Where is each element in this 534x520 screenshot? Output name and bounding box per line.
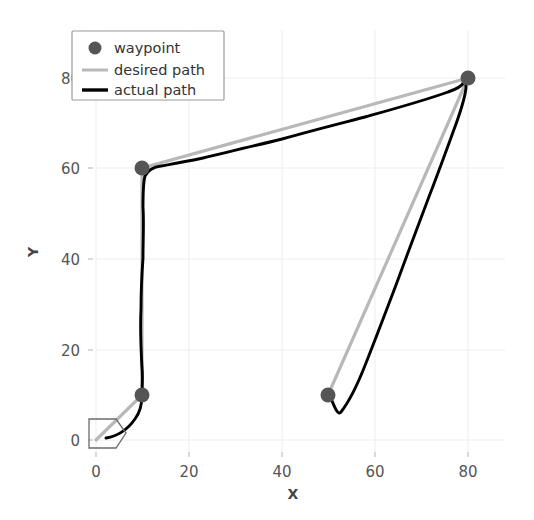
actual-path-series [106, 81, 466, 438]
x-axis-title: X [288, 486, 299, 502]
x-tick-label-80: 80 [458, 463, 477, 481]
y-tick-label-60: 60 [61, 160, 80, 178]
x-tick-label-60: 60 [365, 463, 384, 481]
x-tick-labels: 0 20 40 60 80 [91, 463, 477, 481]
waypoint-marker-50-10 [321, 388, 336, 403]
y-tick-label-20: 20 [61, 342, 80, 360]
y-axis-ticks [88, 78, 93, 440]
waypoint-marker-10-60 [135, 161, 150, 176]
y-axis-title: Y [25, 246, 41, 258]
x-tick-label-20: 20 [179, 463, 198, 481]
waypoint-marker-10-10 [135, 388, 150, 403]
legend-label-desired-path: desired path [114, 62, 205, 78]
legend-label-actual-path: actual path [114, 82, 196, 98]
legend-label-waypoint: waypoint [114, 40, 181, 56]
y-tick-labels: 80 60 40 20 0 [61, 70, 80, 450]
legend-marker-waypoint [89, 42, 102, 55]
chart-figure: 0 20 40 60 80 80 60 40 20 0 X Y [0, 0, 534, 520]
y-tick-label-0: 0 [70, 432, 80, 450]
waypoint-markers [135, 71, 476, 403]
waypoint-tracking-plot: 0 20 40 60 80 80 60 40 20 0 X Y [0, 0, 534, 520]
y-tick-label-40: 40 [61, 251, 80, 269]
legend: waypoint desired path actual path [72, 31, 224, 100]
x-tick-label-0: 0 [91, 463, 101, 481]
x-tick-label-40: 40 [272, 463, 291, 481]
waypoint-marker-80-80 [461, 71, 476, 86]
x-axis-ticks [96, 452, 468, 457]
actual-path-line [106, 81, 466, 438]
